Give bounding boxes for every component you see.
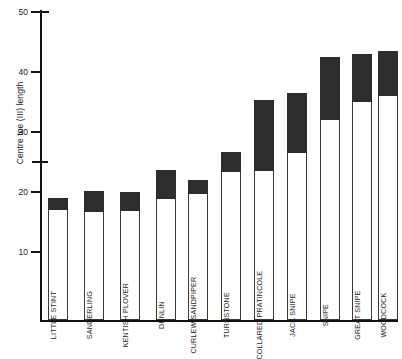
y-tick-label-40: 40 [2, 67, 28, 77]
bar-segment-max [352, 54, 372, 102]
bar-label: WOODCOCK [381, 293, 388, 338]
bar-snipe[interactable]: SNIPE [320, 57, 340, 320]
y-tick-label-50: 50 [2, 7, 28, 17]
bar-segment-max [120, 192, 140, 211]
bar-label: DUNLIN [159, 301, 166, 329]
bar-segment-max [287, 93, 307, 153]
y-tick-30 [31, 131, 40, 133]
y-axis-line [40, 10, 42, 322]
y-tick-label-30: 30 [2, 127, 28, 137]
bar-curlew-sandpiper[interactable]: CURLEW SANDPIPER [188, 180, 208, 320]
bar-collared-pratincole[interactable]: COLLARED PRATINCOLE [254, 100, 274, 320]
bar-segment-max [320, 57, 340, 120]
bar-dunlin[interactable]: DUNLIN [156, 170, 176, 320]
bar-segment-max [254, 100, 274, 171]
bar-label: COLLARED PRATINCOLE [257, 271, 264, 359]
bar-label: SANDERLING [87, 291, 94, 339]
bar-segment-max [188, 180, 208, 194]
bar-label: GREAT SNIPE [355, 290, 362, 339]
bar-segment-max [48, 198, 68, 210]
bar-jack-snipe[interactable]: JACK SNIPE [287, 93, 307, 320]
bar-woodcock[interactable]: WOODCOCK [378, 51, 398, 320]
y-tick-label-20: 20 [2, 187, 28, 197]
bar-segment-max [84, 191, 104, 212]
y-tick-20 [31, 191, 40, 193]
bar-label: TURNSTONE [224, 292, 231, 338]
y-tick-10 [31, 251, 40, 253]
bar-segment-max [378, 51, 398, 96]
bar-sanderling[interactable]: SANDERLING [84, 191, 104, 320]
bar-segment-max [221, 152, 241, 172]
bar-segment-max [156, 170, 176, 199]
y-axis-top-cap [31, 11, 49, 14]
bar-label: SNIPE [323, 304, 330, 326]
bar-label: KENTISH PLOVER [123, 283, 130, 347]
bar-label: LITTLE STINT [51, 291, 58, 339]
bar-little-stint[interactable]: LITTLE STINT [48, 198, 68, 320]
y-tick-label-10: 10 [2, 247, 28, 257]
y-tick-40 [31, 71, 40, 73]
bar-great-snipe[interactable]: GREAT SNIPE [352, 54, 372, 320]
bar-turnstone[interactable]: TURNSTONE [221, 152, 241, 320]
bar-label: JACK SNIPE [290, 293, 297, 336]
y-tick-25 [32, 161, 48, 164]
bar-kentish-plover[interactable]: KENTISH PLOVER [120, 192, 140, 320]
bar-label: CURLEW SANDPIPER [191, 277, 198, 354]
